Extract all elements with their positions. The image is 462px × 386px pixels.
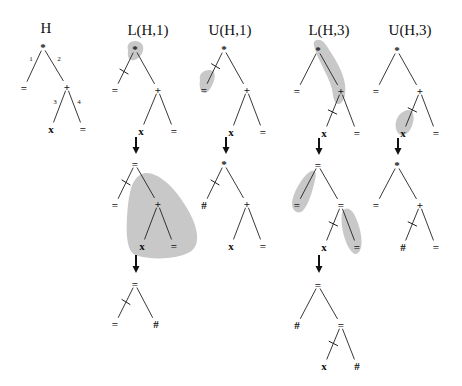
tree-node: * xyxy=(394,44,400,56)
tree-edge xyxy=(300,54,316,85)
tree-node: * xyxy=(221,43,227,55)
tree-node: # xyxy=(294,319,300,331)
tree-node: * xyxy=(221,158,227,170)
tree-node: * xyxy=(40,41,46,53)
tree-node: = xyxy=(260,126,266,138)
tree-edge xyxy=(144,94,157,125)
tree-edge xyxy=(406,209,419,241)
tree-node: = xyxy=(171,125,177,137)
edge-number-label: 1 xyxy=(29,55,33,63)
tree-edge xyxy=(379,169,395,199)
tree-node: = xyxy=(132,278,138,290)
tree-node: + xyxy=(417,199,423,211)
tree-node: = xyxy=(21,82,27,94)
tree-edge xyxy=(320,288,338,318)
tree-node: + xyxy=(244,84,250,96)
tree-title-U1: U(H,1) xyxy=(209,22,252,39)
tree-node: = xyxy=(294,199,300,211)
tree-edge xyxy=(137,288,153,318)
tree-edge xyxy=(342,329,354,360)
tree-node: = xyxy=(201,84,207,96)
tree-node: + xyxy=(244,198,250,210)
tree-edge xyxy=(421,95,433,127)
tree-node: = xyxy=(112,199,118,211)
tree-node: * xyxy=(394,159,400,171)
tree-labels-U1-top: *=+x= xyxy=(201,43,266,138)
tree-node: = xyxy=(338,199,344,211)
tree-node: x xyxy=(48,123,54,135)
cut-mark xyxy=(211,180,220,185)
tree-edge xyxy=(226,167,244,197)
tree-node: x xyxy=(400,127,406,139)
edge-number-label: 2 xyxy=(57,55,61,63)
cut-mark xyxy=(122,180,131,185)
tree-edge xyxy=(379,54,395,85)
tree-edge xyxy=(342,95,354,127)
tree-edge xyxy=(233,94,245,126)
tree-edge xyxy=(207,168,222,199)
tree-edge xyxy=(118,288,133,318)
labels: HL(H,1)U(H,1)L(H,3)U(H,3)1234*=+x=*=+x=*… xyxy=(21,20,439,372)
tree-U1-mid xyxy=(207,167,260,239)
tree-edge xyxy=(300,289,316,319)
tree-edge xyxy=(118,53,133,84)
tree-node: = xyxy=(260,240,266,252)
tree-node: # xyxy=(153,318,159,330)
tree-labels-L1-bottom: ==# xyxy=(112,278,159,330)
tree-U3-mid xyxy=(379,168,433,240)
tree-node: = xyxy=(171,240,177,252)
tree-title-L1: L(H,1) xyxy=(127,22,168,39)
tree-L1-bottom xyxy=(118,288,153,318)
tree-edge xyxy=(226,52,244,83)
tree-title-U3: U(H,3) xyxy=(389,22,432,39)
tree-node: x xyxy=(321,360,327,372)
tree-edge xyxy=(399,168,417,198)
tree-edge xyxy=(53,91,65,123)
arrow-head-icon xyxy=(133,147,140,154)
arrow-head-icon xyxy=(316,148,323,155)
arrow-head-icon xyxy=(133,266,140,273)
tree-node: x xyxy=(321,127,327,139)
arrow-head-icon xyxy=(395,148,402,155)
tree-node: = xyxy=(433,127,439,139)
tree-node: = xyxy=(373,85,379,97)
tree-node: + xyxy=(417,85,423,97)
tree-title-L3: L(H,3) xyxy=(308,22,349,39)
highlight-blob xyxy=(127,173,197,258)
tree-node: = xyxy=(433,241,439,253)
tree-node: # xyxy=(201,199,207,211)
tree-node: + xyxy=(64,81,70,93)
tree-edge xyxy=(248,208,260,240)
tree-node: = xyxy=(112,84,118,96)
tree-node: * xyxy=(132,43,138,55)
tree-title-H: H xyxy=(41,20,52,36)
tree-edge xyxy=(327,329,340,360)
tree-node: = xyxy=(294,85,300,97)
cut-mark xyxy=(329,341,338,346)
tree-node: = xyxy=(373,199,379,211)
tree-node: x xyxy=(138,125,144,137)
tree-node: x xyxy=(139,240,145,252)
tree-node: = xyxy=(354,127,360,139)
cut-mark xyxy=(408,222,417,227)
tree-edge xyxy=(68,91,80,123)
tree-U1-top xyxy=(207,52,260,125)
tree-node: # xyxy=(400,241,406,253)
cut-mark xyxy=(328,110,337,115)
tree-node: # xyxy=(354,360,360,372)
tree-labels-H-tree: 1234*=+x= xyxy=(21,41,86,135)
tree-node: = xyxy=(338,319,344,331)
tree-edge xyxy=(207,53,222,84)
tree-L3-bottom xyxy=(300,288,354,359)
tree-H-tree xyxy=(27,50,81,122)
cut-mark xyxy=(211,64,220,69)
tree-node: = xyxy=(315,159,321,171)
edge-number-label: 3 xyxy=(53,98,57,106)
tree-node: + xyxy=(155,198,161,210)
cut-mark xyxy=(122,299,131,304)
tree-edge xyxy=(320,168,338,198)
tree-edge xyxy=(233,208,245,240)
edge-number-label: 4 xyxy=(77,98,81,106)
tree-node: = xyxy=(315,279,321,291)
tree-edge xyxy=(327,209,340,241)
